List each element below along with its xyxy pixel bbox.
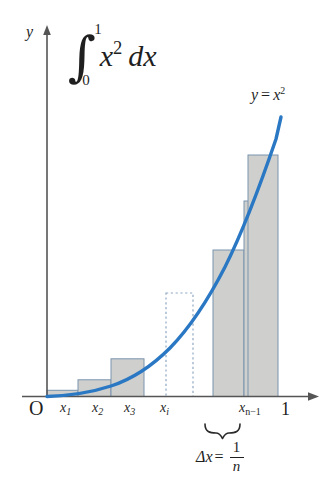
y-axis-arrow-icon <box>43 25 51 35</box>
delta-x-denominator: n <box>233 459 241 475</box>
delta-x-fraction: 1 n <box>230 440 244 475</box>
riemann-sum-figure: y O 1 ∫ 1 0 x2 dx y=x2 x1 x2 x3 xi xn−1 … <box>0 0 330 478</box>
riemann-rectangles <box>47 155 278 397</box>
tick-label-x1: x1 <box>60 401 71 417</box>
integral-expression: ∫ 1 0 x2 dx <box>68 26 157 84</box>
y-axis-label: y <box>26 24 33 40</box>
x-axis-end-label: 1 <box>281 400 290 418</box>
tick-label-x2: x2 <box>92 401 103 417</box>
delta-x-numerator: 1 <box>233 440 241 456</box>
integral-lower-limit: 0 <box>82 73 90 88</box>
integrand-exponent: 2 <box>113 37 122 58</box>
delta-x-brace <box>205 424 240 439</box>
curve-label-y: y <box>251 86 258 103</box>
tick-label-x3: x3 <box>124 401 135 417</box>
tick-x1-sub: 1 <box>66 406 71 417</box>
curve-label-exponent: 2 <box>280 85 285 96</box>
integral-upper-limit: 1 <box>94 22 102 37</box>
delta-x-symbol: Δx <box>196 449 213 465</box>
curve-label-equals: = <box>261 86 270 103</box>
tick-xn1-sub: n−1 <box>245 406 261 417</box>
delta-x-annotation: Δx = 1 n <box>196 440 244 475</box>
tick-label-xi: xi <box>160 401 169 417</box>
bar-n <box>248 155 278 397</box>
origin-label: O <box>29 398 43 418</box>
integral-differential: dx <box>128 39 156 72</box>
integrand: x2 dx <box>100 39 157 71</box>
curve-label: y=x2 <box>251 86 285 103</box>
delta-x-equals: = <box>215 449 224 465</box>
tick-label-xn-minus-1: xn−1 <box>239 401 261 417</box>
integrand-base: x <box>100 39 113 72</box>
bar-n-minus-2 <box>213 250 244 397</box>
tick-x3-sub: 3 <box>130 406 135 417</box>
bar-i-dotted <box>166 293 193 397</box>
x-axis-arrow-icon <box>308 392 319 400</box>
tick-xi-sub: i <box>166 406 169 417</box>
tick-x2-sub: 2 <box>98 406 103 417</box>
